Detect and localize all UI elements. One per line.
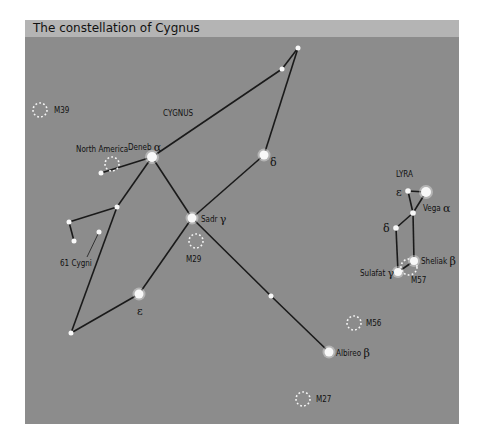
constellation-map: M39North AmericaM29M57M56M27 Deneb αSadr… bbox=[0, 0, 482, 443]
star-cyg-wing-b bbox=[72, 239, 77, 244]
star-cyg-epsilon bbox=[135, 290, 144, 299]
label-sadr: Sadr γ bbox=[201, 213, 227, 226]
star-sheliak bbox=[410, 257, 418, 265]
star-lyr-node bbox=[410, 210, 416, 216]
constellation-line bbox=[117, 157, 152, 207]
constellation-line bbox=[396, 213, 413, 228]
star-61-cygni bbox=[97, 230, 102, 235]
constellation-line bbox=[192, 155, 264, 218]
cluster-m29-marker bbox=[189, 234, 203, 248]
star-cyg-bottom-left bbox=[69, 331, 74, 336]
star-cyg-wing-a bbox=[67, 220, 72, 225]
constellation-name-lyra: LYRA bbox=[396, 170, 413, 179]
constellation-name-cygnus: CYGNUS bbox=[163, 109, 194, 118]
constellation-line bbox=[139, 218, 192, 294]
star-vega bbox=[421, 187, 431, 197]
constellation-lines bbox=[69, 48, 426, 352]
star-cyg-delta bbox=[260, 151, 269, 160]
star-sadr bbox=[188, 214, 197, 223]
star-cyg-top bbox=[296, 46, 301, 51]
constellation-line bbox=[152, 157, 192, 218]
constellation-line bbox=[71, 207, 117, 333]
constellation-line bbox=[69, 207, 117, 222]
constellation-line bbox=[413, 213, 414, 261]
constellation-line bbox=[69, 222, 74, 241]
label-sulafat: Sulafat γ bbox=[360, 267, 395, 280]
label-deneb: Deneb α bbox=[128, 141, 162, 154]
star-albireo bbox=[325, 348, 334, 357]
label-sheliak: Sheliak β bbox=[421, 255, 456, 268]
cluster-m56-label: M56 bbox=[366, 319, 382, 328]
constellation-line bbox=[264, 48, 298, 155]
constellation-names: CYGNUSLYRA bbox=[163, 109, 413, 179]
star-lyr-epsilon bbox=[405, 188, 411, 194]
cluster-m39-marker bbox=[33, 103, 47, 117]
61-cygni-pointer bbox=[87, 232, 99, 257]
constellation-line bbox=[71, 294, 139, 333]
constellation-line bbox=[271, 296, 329, 352]
star-cyg-wing-node bbox=[115, 205, 120, 210]
star-lyr-delta bbox=[393, 225, 399, 231]
star-cyg-top2 bbox=[280, 67, 285, 72]
cluster-m56-marker bbox=[347, 316, 361, 330]
constellation-line bbox=[408, 191, 413, 213]
cluster-m29-label: M29 bbox=[186, 255, 202, 264]
constellation-line bbox=[192, 218, 271, 296]
cluster-m39-label: M39 bbox=[54, 106, 70, 115]
label-lyr-epsilon: ε bbox=[396, 186, 402, 199]
label-vega: Vega α bbox=[423, 202, 451, 215]
label-lyr-delta: δ bbox=[383, 222, 390, 235]
cluster-m27-label: M27 bbox=[316, 395, 331, 404]
star-cyg-na-end bbox=[99, 171, 104, 176]
cluster-m57-label: M57 bbox=[411, 276, 426, 285]
label-61-cygni: 61 Cygni bbox=[60, 259, 92, 268]
constellation-line bbox=[101, 157, 152, 173]
star-cyg-neck bbox=[269, 294, 274, 299]
constellation-line bbox=[396, 228, 398, 272]
label-cyg-delta: δ bbox=[270, 156, 277, 169]
cluster-north-america-label: North America bbox=[76, 145, 128, 154]
label-cyg-epsilon: ε bbox=[137, 305, 143, 318]
cluster-m27-marker bbox=[296, 392, 310, 406]
leader-line bbox=[87, 232, 99, 257]
star-sulafat bbox=[394, 268, 402, 276]
label-albireo: Albireo β bbox=[336, 347, 370, 360]
constellation-line bbox=[282, 48, 298, 69]
